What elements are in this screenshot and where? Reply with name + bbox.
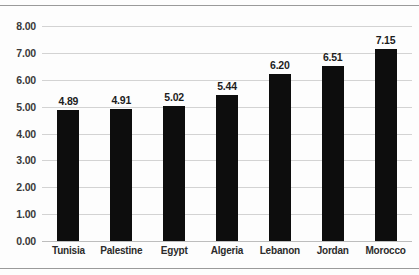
- bar-chart-figure: 0.001.002.003.004.005.006.007.008.00 4.8…: [0, 0, 419, 275]
- y-axis-tick-label: 2.00: [0, 182, 36, 193]
- y-axis-tick-label: 1.00: [0, 209, 36, 220]
- y-axis-tick-label: 8.00: [0, 21, 36, 32]
- y-axis-tick-label: 3.00: [0, 155, 36, 166]
- y-axis-tick-label: 0.00: [0, 236, 36, 247]
- bar: [110, 109, 132, 241]
- bar: [269, 74, 291, 241]
- bar-value-label: 4.91: [98, 95, 144, 106]
- x-axis-line: [42, 241, 412, 242]
- bar-value-label: 5.44: [204, 81, 250, 92]
- bar: [163, 106, 185, 241]
- y-axis-tick-label: 5.00: [0, 102, 36, 113]
- page-rule-top: [0, 5, 419, 6]
- y-axis-tick-label: 6.00: [0, 75, 36, 86]
- bar-value-label: 5.02: [151, 92, 197, 103]
- bar: [322, 66, 344, 241]
- bar: [375, 49, 397, 241]
- y-axis-tick-label: 4.00: [0, 129, 36, 140]
- bar-value-label: 7.15: [363, 35, 409, 46]
- bar: [57, 110, 79, 241]
- bar-value-label: 6.51: [310, 52, 356, 63]
- bar-value-label: 6.20: [257, 60, 303, 71]
- gridline: [42, 26, 412, 27]
- x-axis-category-label: Morocco: [355, 246, 417, 256]
- page-rule-bottom: [0, 268, 419, 269]
- plot-area: [42, 26, 412, 241]
- gridline: [42, 53, 412, 54]
- bar: [216, 95, 238, 241]
- bar-value-label: 4.89: [45, 96, 91, 107]
- y-axis-tick-label: 7.00: [0, 48, 36, 59]
